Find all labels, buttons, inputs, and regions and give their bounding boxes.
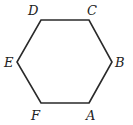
hexagon-shape bbox=[17, 20, 112, 103]
vertex-label-d: D bbox=[27, 3, 39, 18]
vertex-label-e: E bbox=[3, 55, 14, 70]
vertex-label-a: A bbox=[85, 108, 95, 123]
hexagon-diagram: A B C D E F bbox=[0, 0, 133, 125]
vertex-label-f: F bbox=[30, 108, 41, 123]
vertex-label-b: B bbox=[114, 55, 125, 70]
vertex-label-c: C bbox=[87, 3, 97, 18]
